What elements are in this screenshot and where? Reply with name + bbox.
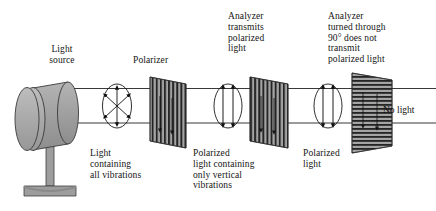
unpolarized-vibration-ellipse bbox=[103, 84, 132, 128]
polarizer-panel bbox=[150, 77, 186, 148]
label-polarizer: Polarizer bbox=[133, 55, 168, 66]
label-unpolarized-light: Light containing all vibrations bbox=[90, 148, 141, 180]
label-no-light: No light bbox=[383, 105, 414, 115]
polarized-vibration-ellipse-2 bbox=[314, 84, 342, 128]
light-source-lamp bbox=[15, 82, 79, 196]
label-analyzer-transmits: Analyzer transmits polarized light bbox=[228, 11, 264, 54]
label-polarized-light: Polarized light bbox=[303, 148, 340, 170]
label-analyzer-crossed: Analyzer turned through 90° does not tra… bbox=[328, 11, 386, 65]
polarized-vibration-ellipse-1 bbox=[214, 84, 242, 128]
polarization-diagram: Light source Polarizer Analyzer transmit… bbox=[0, 0, 436, 211]
analyzer-aligned-panel bbox=[250, 77, 288, 148]
label-vertical-polarized-light: Polarized light containing only vertical… bbox=[193, 148, 255, 191]
label-light-source: Light source bbox=[36, 44, 88, 66]
